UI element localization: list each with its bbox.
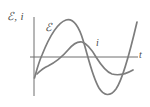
- phasor-waveform-figure: ℰ, i ℰ i t: [0, 0, 150, 107]
- current-curve-label: i: [96, 38, 99, 48]
- emf-curve-label: ℰ: [45, 22, 52, 33]
- y-axis-label: ℰ, i: [7, 11, 24, 22]
- x-axis-label: t: [139, 50, 142, 60]
